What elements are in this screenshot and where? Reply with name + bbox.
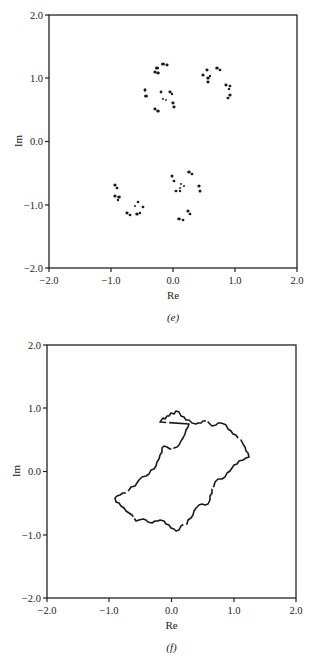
figure-caption: (e) [167,311,180,324]
y-tick-label: 2.0 [28,340,41,351]
x-tick-label: −2.0 [39,275,58,286]
y-axis-title: Im [12,134,24,147]
y-tick-label: −2.0 [22,593,41,604]
y-tick-label: 1.0 [28,403,41,414]
plot-frame [49,15,297,268]
y-tick-label: 2.0 [30,10,43,21]
x-tick-label: 0.0 [166,275,179,286]
plot-f-svg: 2.0 1.0 0.0 −1.0 −2.0 −2.0 −1.0 0.0 1.0 … [0,330,320,665]
figure-e: 2.0 1.0 0.0 −1.0 −2.0 −2.0 −1.0 0.0 1.0 … [0,0,320,330]
x-tick-label: 2.0 [290,275,303,286]
y-tick-label: 1.0 [30,73,43,84]
x-tick-label: 1.0 [228,275,241,286]
julia-boundary-curve [115,411,249,531]
x-tick-label: 1.0 [227,605,240,616]
x-tick-label: −2.0 [37,605,56,616]
y-tick-label: 0.0 [28,466,41,477]
y-tick-label: −1.0 [24,200,43,211]
y-tick-label: −1.0 [22,530,41,541]
julia-dust-points [113,63,231,222]
x-tick-label: 0.0 [165,605,178,616]
x-axis-title: Re [165,619,177,631]
figure-caption: (f) [166,641,177,654]
x-tick-label: −1.0 [101,275,120,286]
plot-e-svg: 2.0 1.0 0.0 −1.0 −2.0 −2.0 −1.0 0.0 1.0 … [0,0,320,330]
figure-f: 2.0 1.0 0.0 −1.0 −2.0 −2.0 −1.0 0.0 1.0 … [0,330,320,665]
x-tick-label: 2.0 [289,605,302,616]
y-tick-label: 0.0 [30,136,43,147]
x-tick-label: −1.0 [99,605,118,616]
plot-frame [47,345,296,598]
x-axis-title: Re [167,289,179,301]
y-axis-title: Im [10,464,22,477]
y-tick-label: −2.0 [24,263,43,274]
